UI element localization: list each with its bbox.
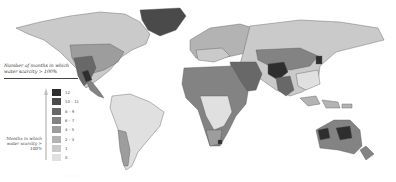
legend-label: 1 xyxy=(65,146,67,151)
legend-item: 6 – 7 xyxy=(52,116,79,125)
legend-label: 4 – 5 xyxy=(65,127,74,132)
footnote: · · · · · · · · · · · xyxy=(60,174,80,178)
legend-item: 4 – 5 xyxy=(52,125,79,134)
legend-item: 10 – 11 xyxy=(52,97,79,106)
legend: 12 10 – 11 8 – 9 6 – 7 4 – 5 2 – 3 1 0 xyxy=(52,88,79,162)
legend-label: 12 xyxy=(65,90,70,95)
legend-item: 8 – 9 xyxy=(52,107,79,116)
legend-title: Number of months in which water scarcity… xyxy=(4,63,78,75)
legend-label: 6 – 7 xyxy=(65,118,74,123)
australia xyxy=(316,120,374,160)
legend-item: 0 xyxy=(52,153,79,162)
legend-item: 1 xyxy=(52,144,79,153)
arrow-label: Months in which water scarcity > 100% xyxy=(6,136,42,152)
legend-swatch xyxy=(52,136,61,143)
legend-swatch xyxy=(52,108,61,115)
legend-swatch xyxy=(52,98,61,105)
legend-item: 12 xyxy=(52,88,79,97)
legend-label: 2 – 3 xyxy=(65,137,74,142)
south-america xyxy=(110,94,164,170)
legend-swatch xyxy=(52,126,61,133)
north-america xyxy=(16,12,150,98)
legend-label: 0 xyxy=(65,155,67,160)
legend-swatch xyxy=(52,89,61,96)
up-arrow-icon xyxy=(44,88,48,160)
legend-item: 2 – 3 xyxy=(52,134,79,143)
legend-divider xyxy=(4,78,78,79)
legend-label: 8 – 9 xyxy=(65,109,74,114)
legend-swatch xyxy=(52,154,61,161)
legend-label: 10 – 11 xyxy=(65,99,79,104)
asia xyxy=(240,20,384,96)
southeast-asia xyxy=(300,96,352,108)
legend-swatch xyxy=(52,117,61,124)
legend-swatch xyxy=(52,145,61,152)
africa xyxy=(182,66,248,146)
